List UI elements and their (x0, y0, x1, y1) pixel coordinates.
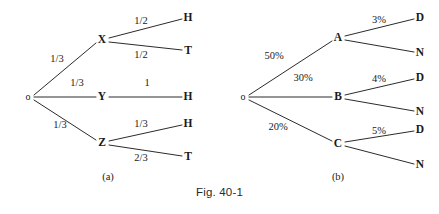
node-a-root: o (26, 92, 31, 102)
edge-label-a-YH: 1 (144, 78, 149, 89)
edge-o-C (249, 100, 332, 141)
node-a-Z: Z (98, 137, 106, 149)
edge-label-b-BD: 4% (372, 74, 386, 85)
leaf-a-H-3: H (184, 118, 193, 130)
leaf-b-N-2: N (416, 106, 424, 118)
edge-o-X (34, 43, 96, 95)
edge-C-N3 (345, 146, 414, 164)
node-b-root: o (241, 92, 246, 102)
edge-label-b-oA: 50% (264, 51, 283, 62)
leaf-a-T-2: T (184, 151, 192, 163)
edge-label-b-CD: 5% (372, 126, 386, 137)
edge-label-b-oC: 20% (268, 122, 287, 133)
tree-edges-svg (0, 0, 439, 214)
leaf-b-D-2: D (416, 72, 424, 84)
node-b-A: A (334, 32, 342, 44)
leaf-a-H-1: H (184, 12, 193, 24)
edge-label-a-oX: 1/3 (50, 54, 63, 65)
leaf-b-N-1: N (416, 47, 424, 59)
node-b-B: B (334, 91, 342, 103)
edge-label-a-XH: 1/2 (134, 16, 147, 27)
edge-label-b-AD: 3% (372, 15, 386, 26)
edge-label-a-oZ: 1/3 (53, 120, 66, 131)
edge-B-N2 (345, 99, 414, 111)
leaf-a-H-2: H (184, 91, 193, 103)
edge-label-a-XT: 1/2 (134, 50, 147, 61)
leaf-b-D-1: D (416, 12, 424, 24)
edge-label-a-ZH: 1/3 (134, 119, 147, 130)
part-label-a: (a) (102, 172, 114, 183)
edge-A-N1 (345, 40, 414, 52)
edge-label-a-oY: 1/3 (70, 78, 83, 89)
edge-o-A (249, 41, 332, 95)
edge-label-b-oB: 30% (293, 73, 312, 84)
figure-container: o X Y Z H T H H T 1/3 1/3 1/3 1/2 1/2 1 … (0, 0, 439, 214)
edge-label-a-ZT: 2/3 (134, 153, 147, 164)
node-a-X: X (98, 34, 106, 46)
node-b-C: C (334, 138, 342, 150)
part-label-b: (b) (332, 172, 344, 183)
node-a-Y: Y (98, 91, 106, 103)
leaf-b-D-3: D (416, 124, 424, 136)
leaf-a-T-1: T (184, 45, 192, 57)
leaf-b-N-3: N (416, 159, 424, 171)
figure-caption: Fig. 40-1 (0, 186, 439, 198)
